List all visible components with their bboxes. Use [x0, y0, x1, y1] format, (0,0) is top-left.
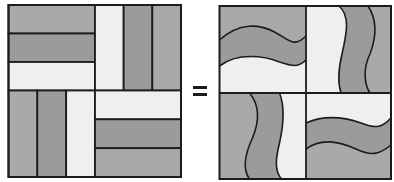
equals-bar-top [193, 86, 207, 89]
strip-light [95, 5, 124, 91]
strip-outer [9, 91, 38, 178]
strip-light [9, 62, 96, 91]
left-block-straight [9, 5, 182, 177]
quadrant-bottom-left [9, 91, 96, 178]
right-block-curved [220, 6, 392, 179]
quadrant-bottom-right [95, 91, 181, 178]
strip-outer [152, 5, 181, 91]
quadrant-bottom-left [220, 93, 307, 179]
quadrant-top-right [95, 5, 181, 91]
quadrant-top-left [9, 5, 96, 91]
strip-outer [9, 5, 96, 34]
equals-bar-bottom [193, 93, 207, 96]
strip-middle [37, 91, 66, 178]
strip-outer [95, 148, 181, 177]
strip-middle [9, 34, 96, 63]
strip-middle [95, 119, 181, 148]
strip-light [66, 91, 95, 178]
strip-middle [124, 5, 153, 91]
quadrant-bottom-right [306, 93, 391, 179]
quadrant-top-left [220, 6, 307, 93]
equals-sign [193, 86, 207, 96]
quadrant-top-right [306, 6, 391, 93]
quilt-diagram [0, 0, 394, 182]
strip-light [95, 91, 181, 120]
